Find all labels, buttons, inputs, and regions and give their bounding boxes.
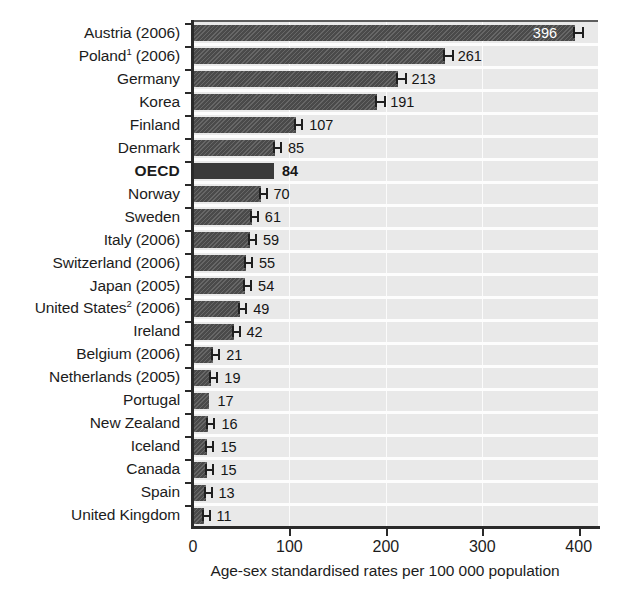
category-label: Germany [117, 68, 180, 91]
bar [193, 301, 240, 317]
bar-value-label: 16 [221, 416, 237, 432]
category-label: Japan (2005) [90, 275, 180, 298]
error-bar [238, 301, 247, 317]
row-separator [193, 89, 598, 92]
row-separator [193, 319, 598, 322]
bar-value-label: 19 [224, 370, 240, 386]
bar-value-label: 15 [220, 439, 236, 455]
row-separator [193, 158, 598, 161]
error-bar [206, 416, 215, 432]
category-label: Portugal [123, 389, 180, 412]
row-separator [193, 112, 598, 115]
category-label: New Zealand [90, 412, 180, 435]
error-bar [443, 48, 454, 64]
bar-value-label: 15 [220, 462, 236, 478]
bar-value-label: 55 [259, 255, 275, 271]
bar-value-label: 261 [458, 48, 482, 64]
bar-value-label: 85 [288, 140, 304, 156]
bar [193, 140, 275, 156]
category-label: Belgium (2006) [76, 343, 180, 366]
bar-value-label: 213 [411, 71, 435, 87]
x-axis-tick-400 [579, 529, 581, 536]
row-separator [193, 457, 598, 460]
error-bar [209, 370, 218, 386]
x-axis-tick-label: 300 [452, 536, 512, 558]
bar-value-label: 59 [263, 232, 279, 248]
row-separator [193, 43, 598, 46]
bar [193, 347, 213, 363]
bar [193, 232, 250, 248]
bar-value-label: 70 [274, 186, 290, 202]
category-label: Denmark [118, 137, 180, 160]
error-bar [248, 232, 257, 248]
bar-value-label: 396 [533, 25, 557, 41]
category-label: Ireland [133, 320, 180, 343]
bar-value-label: 107 [309, 117, 333, 133]
bar-value-label: 54 [258, 278, 274, 294]
error-bar [250, 209, 259, 225]
bar [193, 25, 575, 41]
category-label: Canada [126, 458, 180, 481]
category-label: United States2 (2006) [35, 297, 180, 320]
x-axis-title: Age-sex standardised rates per 100 000 p… [150, 562, 620, 580]
category-label: Italy (2006) [104, 229, 180, 252]
x-axis-tick-label: 100 [259, 536, 319, 558]
x-axis-line [191, 526, 600, 529]
category-label: Sweden [125, 206, 180, 229]
row-separator [193, 365, 598, 368]
error-bar [205, 439, 214, 455]
row-separator [193, 388, 598, 391]
bar [193, 209, 252, 225]
bar [193, 163, 274, 179]
error-bar [259, 186, 268, 202]
category-label: Poland1 (2006) [79, 45, 180, 68]
row-separator [193, 204, 598, 207]
row-separator [193, 503, 598, 506]
category-label: Switzerland (2006) [53, 252, 180, 275]
error-bar [211, 347, 220, 363]
category-label: Iceland [131, 435, 180, 458]
category-label: Spain [141, 481, 180, 504]
bar [193, 94, 377, 110]
x-axis-tick-label: 200 [356, 536, 416, 558]
category-axis: Austria (2006)Poland1 (2006)GermanyKorea… [0, 22, 188, 527]
bar-value-label: 13 [219, 485, 235, 501]
row-separator [193, 480, 598, 483]
category-label: Netherlands (2005) [49, 366, 180, 389]
error-bar [396, 71, 407, 87]
error-bar [294, 117, 303, 133]
category-label: OECD [134, 160, 180, 183]
bar [193, 186, 261, 202]
bar-value-label: 84 [282, 163, 298, 179]
y-axis-line [191, 20, 194, 529]
category-label: United Kingdom [71, 504, 180, 527]
row-separator [193, 342, 598, 345]
row-separator [193, 227, 598, 230]
bar [193, 393, 209, 409]
bar-value-label: 42 [247, 324, 263, 340]
bar-value-label: 61 [265, 209, 281, 225]
error-bar [205, 462, 214, 478]
bar-value-label: 21 [226, 347, 242, 363]
bar [193, 324, 234, 340]
category-label: Austria (2006) [84, 22, 180, 45]
category-label: Finland [130, 114, 180, 137]
x-axis-tick-200 [386, 529, 388, 536]
plot-frame-top [193, 20, 598, 22]
bar-value-label: 49 [253, 301, 269, 317]
row-separator [193, 66, 598, 69]
bar [193, 117, 296, 133]
error-bar [232, 324, 241, 340]
error-bar [204, 485, 213, 501]
x-axis-tick-label: 400 [549, 536, 609, 558]
category-label: Norway [128, 183, 180, 206]
error-bar [573, 25, 584, 41]
row-separator [193, 273, 598, 276]
error-bar [202, 508, 211, 524]
error-bar [244, 255, 253, 271]
horizontal-bar-chart: Austria (2006)Poland1 (2006)GermanyKorea… [0, 0, 626, 611]
row-separator [193, 296, 598, 299]
bar [193, 48, 445, 64]
x-axis-tick-300 [482, 529, 484, 536]
row-separator [193, 250, 598, 253]
